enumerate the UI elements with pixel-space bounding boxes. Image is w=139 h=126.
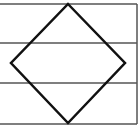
diamond-shape xyxy=(11,4,125,123)
diagram-canvas xyxy=(0,0,139,126)
frame xyxy=(0,4,137,124)
